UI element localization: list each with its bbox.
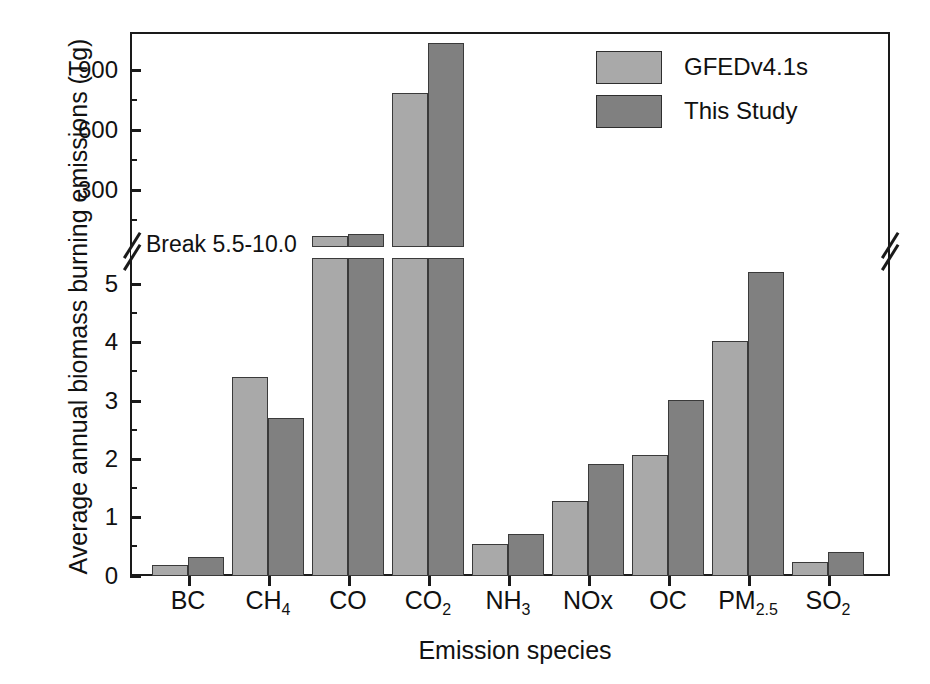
x-tick-label-pm25-text: PM bbox=[718, 586, 756, 614]
y-tick-mark-4 bbox=[130, 341, 141, 344]
bar-bc-gfed bbox=[152, 565, 188, 576]
x-tick-label-nh3-text: NH bbox=[485, 586, 521, 614]
y-tick-mark-minor-4-5 bbox=[130, 312, 137, 314]
bar-oc-gfed bbox=[632, 455, 668, 576]
y-tick-mark-minor-3-5 bbox=[130, 370, 137, 372]
y-tick-label-4: 4 bbox=[0, 328, 118, 356]
x-tick-mark-co bbox=[348, 576, 351, 586]
bar-nh3-gfed bbox=[472, 544, 508, 576]
bar-co-gfed-lower bbox=[312, 258, 348, 576]
x-tick-label-bc-text: BC bbox=[171, 586, 206, 614]
bar-pm25-gfed bbox=[712, 341, 748, 576]
legend: GFEDv4.1s This Study bbox=[596, 45, 826, 133]
bar-ch4-gfed bbox=[232, 377, 268, 576]
x-tick-label-so2: SO2 bbox=[768, 586, 888, 619]
x-tick-label-so2-text: SO bbox=[805, 586, 841, 614]
y-tick-mark-minor-150 bbox=[130, 219, 137, 221]
x-tick-label-so2-sub: 2 bbox=[842, 601, 851, 618]
x-tick-mark-co2 bbox=[428, 576, 431, 586]
bar-pm25-thisstudy bbox=[748, 272, 784, 576]
bar-so2-gfed bbox=[792, 562, 828, 576]
y-tick-mark-minor-2-5 bbox=[130, 429, 137, 431]
bar-nox-gfed bbox=[552, 501, 588, 576]
bar-bc-thisstudy bbox=[188, 557, 224, 576]
y-tick-label-600: 600 bbox=[0, 116, 118, 144]
y-tick-mark-5 bbox=[130, 283, 141, 286]
x-tick-mark-nox bbox=[588, 576, 591, 586]
x-tick-mark-bc bbox=[188, 576, 191, 586]
x-tick-mark-oc bbox=[668, 576, 671, 586]
bar-ch4-thisstudy bbox=[268, 418, 304, 576]
y-tick-mark-900 bbox=[130, 69, 141, 72]
y-tick-label-5: 5 bbox=[0, 270, 118, 298]
bar-chart-figure: Average annual biomass burning emissions… bbox=[0, 0, 930, 684]
y-tick-mark-1 bbox=[130, 516, 141, 519]
y-tick-mark-0 bbox=[130, 575, 141, 578]
bar-nh3-thisstudy bbox=[508, 534, 544, 576]
legend-swatch-gfed bbox=[596, 51, 662, 84]
y-tick-mark-minor-450 bbox=[130, 159, 137, 161]
bar-co-thisstudy-lower bbox=[348, 258, 384, 576]
y-tick-label-1: 1 bbox=[0, 503, 118, 531]
x-tick-mark-nh3 bbox=[508, 576, 511, 586]
bar-co2-gfed-lower bbox=[392, 258, 428, 576]
legend-swatch-thisstudy bbox=[596, 95, 662, 128]
axis-break-label: Break 5.5-10.0 bbox=[146, 231, 297, 258]
x-axis-title: Emission species bbox=[130, 636, 900, 665]
y-tick-mark-3 bbox=[130, 400, 141, 403]
legend-item-thisstudy: This Study bbox=[596, 89, 826, 133]
bar-co-thisstudy-upper bbox=[348, 234, 384, 247]
bar-co2-thisstudy-upper bbox=[428, 43, 464, 247]
y-tick-label-2: 2 bbox=[0, 445, 118, 473]
y-tick-mark-2 bbox=[130, 458, 141, 461]
x-tick-label-oc-text: OC bbox=[649, 586, 687, 614]
y-tick-label-0: 0 bbox=[0, 562, 118, 590]
legend-item-gfed: GFEDv4.1s bbox=[596, 45, 826, 89]
x-tick-mark-so2 bbox=[828, 576, 831, 586]
bar-co2-thisstudy-lower bbox=[428, 258, 464, 576]
y-tick-label-3: 3 bbox=[0, 387, 118, 415]
bar-co2-gfed-upper bbox=[392, 93, 428, 247]
x-tick-label-ch4-text: CH bbox=[245, 586, 281, 614]
y-tick-mark-300 bbox=[130, 189, 141, 192]
legend-label-gfed: GFEDv4.1s bbox=[684, 53, 808, 81]
x-tick-label-nox-text: NOx bbox=[563, 586, 613, 614]
bar-co-gfed-upper bbox=[312, 236, 348, 247]
y-tick-mark-minor-1-5 bbox=[130, 487, 137, 489]
y-tick-label-300: 300 bbox=[0, 176, 118, 204]
x-tick-label-co2-text: CO bbox=[405, 586, 443, 614]
axis-break-mark-left bbox=[115, 234, 149, 268]
x-tick-label-co-text: CO bbox=[329, 586, 367, 614]
axis-break-mark-right bbox=[873, 234, 907, 268]
legend-label-thisstudy: This Study bbox=[684, 97, 797, 125]
x-tick-mark-pm25 bbox=[748, 576, 751, 586]
x-tick-mark-ch4 bbox=[268, 576, 271, 586]
y-tick-mark-minor-750 bbox=[130, 99, 137, 101]
y-tick-label-900: 900 bbox=[0, 56, 118, 84]
y-tick-mark-minor-0-5 bbox=[130, 545, 137, 547]
bar-oc-thisstudy bbox=[668, 400, 704, 576]
bar-nox-thisstudy bbox=[588, 464, 624, 576]
bar-so2-thisstudy bbox=[828, 552, 864, 576]
y-tick-mark-600 bbox=[130, 129, 141, 132]
